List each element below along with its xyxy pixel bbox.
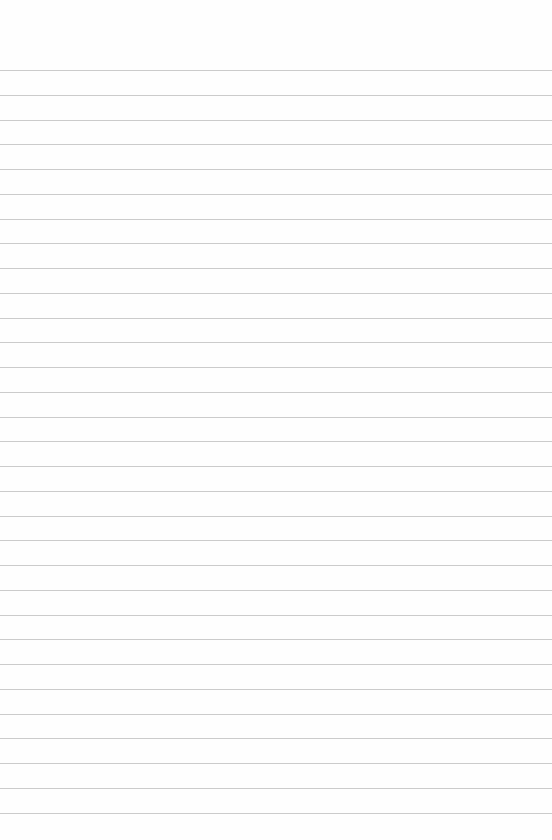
ruled-line	[0, 70, 552, 71]
ruled-line	[0, 293, 552, 294]
ruled-line	[0, 565, 552, 566]
ruled-line	[0, 540, 552, 541]
ruled-line	[0, 367, 552, 368]
ruled-line	[0, 516, 552, 517]
ruled-line	[0, 590, 552, 591]
ruled-line	[0, 219, 552, 220]
ruled-line	[0, 639, 552, 640]
ruled-line	[0, 788, 552, 789]
ruled-line	[0, 714, 552, 715]
ruled-line	[0, 417, 552, 418]
ruled-line	[0, 491, 552, 492]
lined-paper-page	[0, 0, 552, 840]
ruled-line	[0, 615, 552, 616]
ruled-line	[0, 95, 552, 96]
ruled-line	[0, 466, 552, 467]
ruled-line	[0, 738, 552, 739]
ruled-line	[0, 243, 552, 244]
ruled-line	[0, 664, 552, 665]
ruled-line	[0, 763, 552, 764]
ruled-line	[0, 813, 552, 814]
ruled-line	[0, 169, 552, 170]
ruled-line	[0, 268, 552, 269]
ruled-line	[0, 392, 552, 393]
ruled-line	[0, 689, 552, 690]
ruled-line	[0, 342, 552, 343]
ruled-line	[0, 120, 552, 121]
ruled-line	[0, 318, 552, 319]
ruled-line	[0, 194, 552, 195]
ruled-line	[0, 144, 552, 145]
ruled-line	[0, 441, 552, 442]
